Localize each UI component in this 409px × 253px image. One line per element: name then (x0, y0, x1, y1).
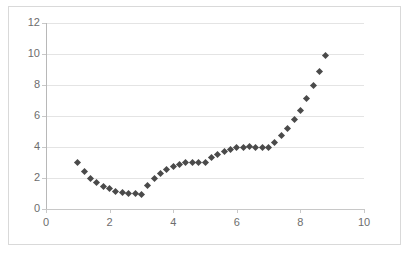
x-axis-line (46, 209, 365, 210)
x-axis-tick-label: 4 (160, 217, 186, 228)
chart-plot-wrapper: 024681012 0246810 (9, 7, 400, 244)
x-axis-tick-label: 0 (33, 217, 59, 228)
x-axis-tick (110, 209, 111, 213)
x-axis-tick (300, 209, 301, 213)
x-axis-tick (173, 209, 174, 213)
x-axis-tick (237, 209, 238, 213)
x-axis-tick (364, 209, 365, 213)
y-axis-tick-label: 10 (14, 48, 40, 59)
y-axis-tick-label: 6 (14, 110, 40, 121)
x-axis-tick (46, 209, 47, 213)
chart-frame: 024681012 0246810 (8, 6, 401, 245)
x-axis-tick-label: 8 (287, 217, 313, 228)
y-axis-labels: 024681012 (9, 7, 40, 244)
x-axis-tick-label: 6 (224, 217, 250, 228)
y-axis-tick-label: 0 (14, 203, 40, 214)
y-axis-tick-label: 8 (14, 79, 40, 90)
y-axis-tick-label: 2 (14, 172, 40, 183)
y-axis-tick-label: 12 (14, 17, 40, 28)
x-axis-tick-label: 10 (351, 217, 377, 228)
y-axis-tick-label: 4 (14, 141, 40, 152)
x-axis-tick-label: 2 (97, 217, 123, 228)
